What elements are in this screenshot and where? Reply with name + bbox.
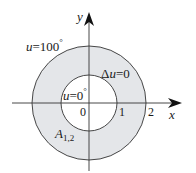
outer-boundary-condition: u=100° bbox=[26, 37, 63, 54]
x-axis-label: x bbox=[168, 107, 175, 122]
inner-boundary-condition: u=0° bbox=[63, 86, 87, 103]
x-tick-2: 2 bbox=[148, 105, 154, 119]
origin-label: 0 bbox=[80, 105, 86, 119]
annulus-diagram: y x 0 1 2 u=100° u=0° Δu=0 A1,2 bbox=[0, 0, 196, 173]
x-tick-1: 1 bbox=[119, 105, 125, 119]
laplace-equation: Δu=0 bbox=[101, 66, 130, 81]
y-axis-label: y bbox=[75, 9, 83, 24]
